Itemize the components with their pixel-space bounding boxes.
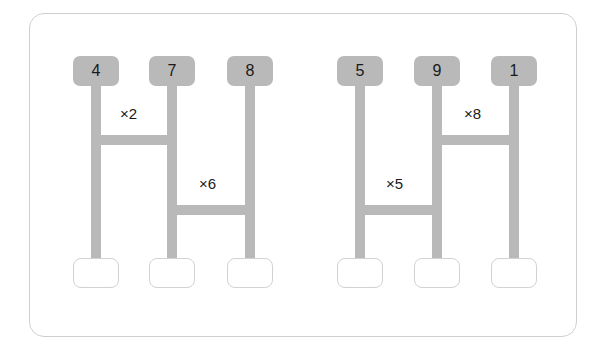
token-col-7[interactable]: 7 — [149, 56, 195, 86]
answer-slot-1[interactable] — [73, 258, 119, 288]
stem-col-9 — [432, 78, 442, 261]
answer-slot-4[interactable] — [337, 258, 383, 288]
token-label: 4 — [92, 62, 101, 80]
token-label: 7 — [168, 62, 177, 80]
diagram-canvas: 4 7 8 5 9 1 ×2 ×6 ×5 ×8 — [0, 0, 610, 363]
answer-slot-5[interactable] — [414, 258, 460, 288]
multiplier-label-x2: ×2 — [120, 105, 137, 122]
stem-col-7 — [167, 78, 177, 261]
connector-x8 — [432, 135, 519, 145]
token-col-8[interactable]: 8 — [227, 56, 273, 86]
multiplier-label-x5: ×5 — [386, 175, 403, 192]
stem-col-8 — [245, 78, 255, 261]
answer-slot-6[interactable] — [491, 258, 537, 288]
connector-x6 — [167, 205, 255, 215]
token-label: 5 — [356, 62, 365, 80]
token-label: 8 — [246, 62, 255, 80]
token-col-5[interactable]: 5 — [337, 56, 383, 86]
multiplier-label-x8: ×8 — [464, 105, 481, 122]
answer-slot-2[interactable] — [149, 258, 195, 288]
answer-slot-3[interactable] — [227, 258, 273, 288]
token-col-9[interactable]: 9 — [414, 56, 460, 86]
connector-x5 — [355, 205, 442, 215]
stem-col-5 — [355, 78, 365, 261]
token-label: 9 — [433, 62, 442, 80]
diagram-layer: 4 7 8 5 9 1 ×2 ×6 ×5 ×8 — [0, 0, 610, 363]
connector-x2 — [91, 135, 177, 145]
multiplier-label-x6: ×6 — [199, 175, 216, 192]
token-label: 1 — [510, 62, 519, 80]
token-col-1[interactable]: 1 — [491, 56, 537, 86]
token-col-4[interactable]: 4 — [73, 56, 119, 86]
stem-col-4 — [91, 78, 101, 261]
stem-col-1 — [509, 78, 519, 261]
